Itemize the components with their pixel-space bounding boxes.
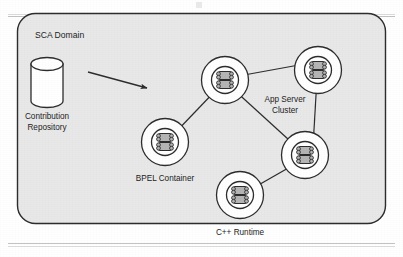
connector-port: [230, 84, 234, 88]
cylinder-top: [31, 58, 63, 71]
sca-domain-label: SCA Domain: [35, 30, 84, 40]
connector-port: [217, 84, 221, 88]
connector-port: [310, 74, 314, 78]
connector-port: [297, 159, 301, 163]
connector-port: [310, 159, 314, 163]
scan-artifact: [196, 2, 202, 8]
repository-label-line2: Repository: [27, 123, 67, 132]
runtime-node-bpel: [142, 119, 189, 166]
connector-port: [310, 150, 314, 154]
contribution-repository: [31, 58, 63, 108]
diagram-canvas: SCA Domain Contribution Repository: [0, 0, 403, 257]
bpel-container-label: BPEL Container: [136, 174, 195, 183]
connector-port: [232, 199, 236, 203]
connector-port: [323, 65, 327, 69]
runtime-node-cpp: [217, 172, 264, 219]
connector-port: [170, 146, 174, 150]
cpp-runtime-label: C++ Runtime: [216, 228, 265, 237]
app-server-label-line1: App Server: [265, 95, 306, 104]
connector-port: [230, 75, 234, 79]
app-server-label-line2: Cluster: [272, 106, 298, 115]
connector-port: [170, 137, 174, 141]
runtime-node-top-center: [202, 57, 249, 104]
connector-port: [297, 150, 301, 154]
runtime-node-mid-right: [282, 132, 329, 179]
connector-port: [157, 146, 161, 150]
connector-port: [245, 199, 249, 203]
connector-port: [323, 74, 327, 78]
connector-port: [310, 65, 314, 69]
connector-port: [232, 190, 236, 194]
sca-domain-diagram: SCA Domain Contribution Repository: [0, 0, 403, 257]
repository-label-line1: Contribution: [25, 112, 70, 121]
connector-port: [245, 190, 249, 194]
sca-domain-boundary: [18, 14, 386, 224]
runtime-node-top-right: [295, 47, 342, 94]
connector-port: [217, 75, 221, 79]
connector-port: [157, 137, 161, 141]
